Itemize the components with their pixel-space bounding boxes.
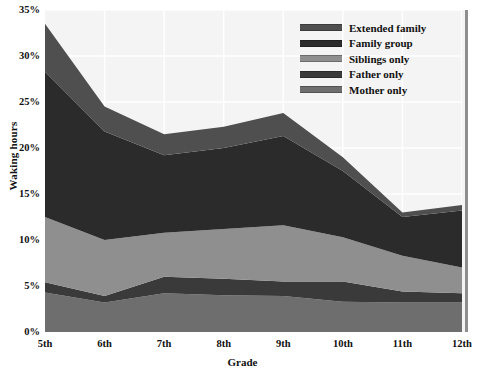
x-axis-title: Grade — [0, 356, 485, 368]
x-axis-tick-label: 9th — [263, 338, 303, 349]
legend-swatch-icon — [300, 24, 342, 31]
x-axis-tick-label: 7th — [144, 338, 184, 349]
x-axis-tick-label: 11th — [382, 338, 422, 349]
legend-item[interactable]: Siblings only — [300, 51, 470, 67]
stacked-area-chart: Waking hours 0%5%10%15%20%25%30%35% 5th6… — [0, 0, 485, 372]
legend-swatch-icon — [300, 40, 342, 47]
x-axis-tick-label: 8th — [204, 338, 244, 349]
legend-swatch-icon — [300, 55, 342, 62]
x-axis-tick-label: 5th — [25, 338, 65, 349]
x-axis-tick-label: 10th — [323, 338, 363, 349]
legend-swatch-icon — [300, 71, 342, 78]
legend-item-label: Siblings only — [349, 53, 409, 65]
legend-swatch-icon — [300, 86, 342, 93]
legend-item[interactable]: Father only — [300, 67, 470, 83]
legend-item-label: Mother only — [349, 84, 407, 96]
legend-item-label: Extended family — [349, 22, 426, 34]
legend-item[interactable]: Mother only — [300, 82, 470, 98]
x-axis-tick-label: 12th — [442, 338, 482, 349]
legend-item-label: Family group — [349, 37, 413, 49]
x-axis-tick-label: 6th — [85, 338, 125, 349]
legend-item[interactable]: Extended family — [300, 20, 470, 36]
chart-legend: Extended familyFamily groupSiblings only… — [300, 20, 470, 98]
legend-item[interactable]: Family group — [300, 36, 470, 52]
legend-item-label: Father only — [349, 68, 404, 80]
